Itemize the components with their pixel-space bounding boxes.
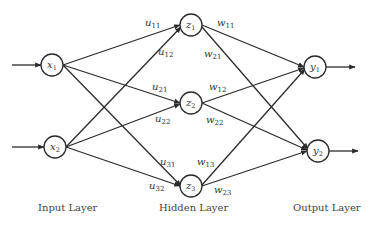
node-z3: z3 bbox=[180, 175, 202, 197]
node-x1: x1 bbox=[41, 54, 63, 76]
node-z1: z1 bbox=[180, 14, 202, 36]
weight-u12: u12 bbox=[158, 46, 173, 59]
weight-u22: u22 bbox=[155, 113, 170, 126]
neural-network-diagram: x1 x2 z1 z2 z3 y1 y2 u11 u12 u21 u22 u31… bbox=[0, 0, 369, 225]
node-z2: z2 bbox=[180, 92, 202, 114]
edge-x1-z1 bbox=[63, 25, 180, 65]
output-layer-label: Output Layer bbox=[293, 202, 361, 213]
weight-w21: w21 bbox=[204, 48, 221, 61]
weight-u11: u11 bbox=[145, 17, 160, 30]
input-layer-label: Input Layer bbox=[38, 202, 98, 213]
weight-w12: w12 bbox=[209, 81, 226, 94]
weight-w13: w13 bbox=[197, 156, 214, 169]
node-x2: x2 bbox=[44, 136, 66, 158]
weight-w22: w22 bbox=[206, 114, 223, 127]
weight-w23: w23 bbox=[214, 184, 231, 197]
weight-u32: u32 bbox=[149, 180, 164, 193]
weight-w11: w11 bbox=[217, 17, 234, 30]
edge-z3-y2 bbox=[202, 151, 307, 186]
hidden-layer-label: Hidden Layer bbox=[159, 202, 228, 213]
node-y2: y2 bbox=[307, 140, 329, 162]
node-y1: y1 bbox=[304, 56, 326, 78]
edge-x1-z2 bbox=[63, 65, 180, 103]
weight-u21: u21 bbox=[152, 81, 167, 94]
